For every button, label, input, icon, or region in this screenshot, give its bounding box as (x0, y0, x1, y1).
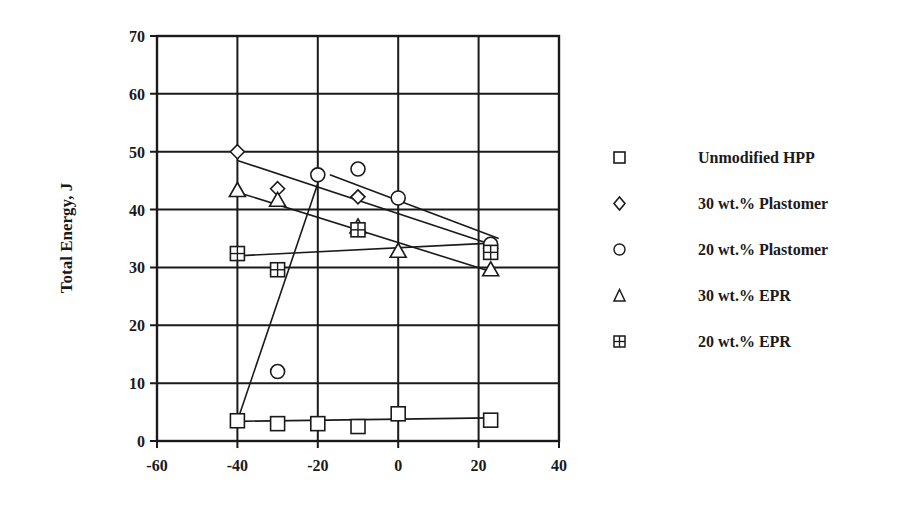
legend: Unmodified HPP 30 wt.% Plastomer 20 wt.%… (610, 135, 640, 365)
triangle-marker-icon (270, 192, 286, 206)
svg-text:60: 60 (129, 86, 145, 103)
svg-text:-40: -40 (227, 457, 248, 474)
square-cross-marker-icon (484, 245, 498, 259)
square-cross-marker-icon (271, 263, 285, 277)
svg-text:0: 0 (394, 457, 402, 474)
legend-label: 30 wt.% Plastomer (698, 195, 828, 213)
legend-label: 20 wt.% Plastomer (698, 241, 828, 259)
svg-text:40: 40 (551, 457, 567, 474)
legend-item-20-epr: 20 wt.% EPR (610, 319, 640, 365)
diamond-marker-icon (230, 145, 244, 159)
circle-marker-icon (351, 162, 365, 176)
square-marker-icon (271, 417, 285, 431)
legend-label: Unmodified HPP (698, 149, 815, 167)
triangle-marker-icon (229, 182, 245, 196)
svg-text:20: 20 (129, 317, 145, 334)
svg-text:40: 40 (129, 202, 145, 219)
svg-text:50: 50 (129, 144, 145, 161)
svg-text:0: 0 (137, 433, 145, 450)
circle-marker-icon (311, 168, 325, 182)
y-axis-title: Total Energy, J (57, 182, 76, 293)
square-marker-icon (391, 407, 405, 421)
circle-marker-icon (271, 365, 285, 379)
diamond-marker-icon (610, 194, 640, 214)
legend-item-30-plastomer: 30 wt.% Plastomer (610, 181, 640, 227)
legend-item-30-epr: 30 wt.% EPR (610, 273, 640, 319)
square-marker-icon (484, 413, 498, 427)
legend-item-unmodified-hpp: Unmodified HPP (610, 135, 640, 181)
legend-label: 30 wt.% EPR (698, 287, 791, 305)
triangle-marker-icon (483, 262, 499, 276)
chart-plot: -60-40-2002040010203040506070 Total Ener… (0, 0, 902, 532)
square-cross-marker-icon (351, 223, 365, 237)
square-marker-icon (610, 148, 640, 168)
square-marker-icon (311, 417, 325, 431)
square-cross-marker-icon (230, 247, 244, 261)
svg-text:70: 70 (129, 28, 145, 45)
svg-text:30: 30 (129, 259, 145, 276)
triangle-marker-icon (390, 243, 406, 257)
svg-text:20: 20 (471, 457, 487, 474)
triangle-marker-icon (610, 286, 640, 306)
square-marker-icon (351, 420, 365, 434)
legend-label: 20 wt.% EPR (698, 333, 791, 351)
circle-marker-icon (391, 191, 405, 205)
circle-marker-icon (610, 240, 640, 260)
square-cross-marker-icon (610, 332, 640, 352)
legend-item-20-plastomer: 20 wt.% Plastomer (610, 227, 640, 273)
svg-text:-20: -20 (307, 457, 328, 474)
svg-text:10: 10 (129, 375, 145, 392)
square-marker-icon (230, 414, 244, 428)
svg-text:-60: -60 (146, 457, 167, 474)
